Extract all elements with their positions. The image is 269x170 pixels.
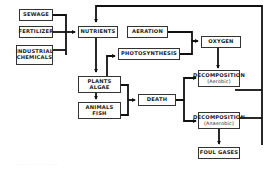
node-decomposition-anaerobic: DECOMPOSITION (Anaerobic) xyxy=(198,112,240,129)
node-nutrients: NUTRIENTS xyxy=(78,26,118,38)
node-decomposition-aerobic: DECOMPOSITION (Aerobic) xyxy=(198,70,240,87)
node-plants-algae: PLANTS ALGAE xyxy=(78,76,121,93)
node-label: FERTILIZER xyxy=(19,29,54,35)
faint-caption: · · · · · · · · · · · · · · · · xyxy=(14,163,58,167)
node-label: OXYGEN xyxy=(208,39,233,45)
node-fertilizer: FERTILIZER xyxy=(19,26,53,38)
node-industrial-chemicals: INDUSTRIAL CHEMICALS xyxy=(16,45,53,65)
node-aeration: AERATION xyxy=(127,26,168,38)
node-label: FOUL GASES xyxy=(200,150,239,156)
node-sewage: SEWAGE xyxy=(19,9,53,21)
node-label: CHEMICALS xyxy=(17,55,52,61)
node-animals-fish: ANIMALS FISH xyxy=(78,102,121,119)
node-label: PHOTOSYNTHESIS xyxy=(121,51,177,57)
node-foul-gases: FOUL GASES xyxy=(198,147,240,159)
node-label: FISH xyxy=(92,111,106,117)
node-death: DEATH xyxy=(138,94,176,106)
node-sublabel: (Anaerobic) xyxy=(204,121,234,127)
node-label: NUTRIENTS xyxy=(81,29,116,35)
node-label: AERATION xyxy=(132,29,163,35)
node-label: SEWAGE xyxy=(23,12,49,18)
node-label: ALGAE xyxy=(89,85,109,91)
node-oxygen: OXYGEN xyxy=(201,36,241,48)
node-photosynthesis: PHOTOSYNTHESIS xyxy=(118,48,180,60)
node-sublabel: (Aerobic) xyxy=(207,79,231,85)
node-label: DEATH xyxy=(147,97,167,103)
